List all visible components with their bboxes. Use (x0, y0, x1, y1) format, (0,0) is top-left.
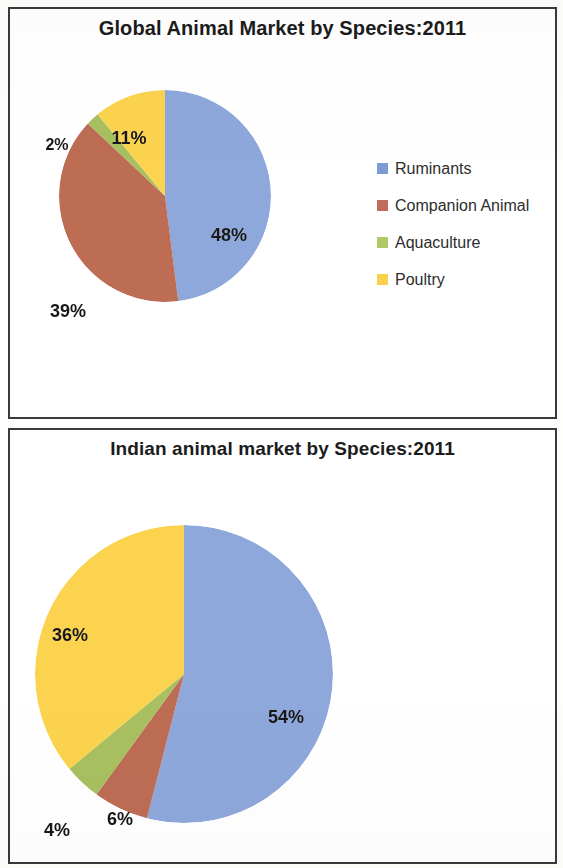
legend-item-poultry-global[interactable]: Poultry (377, 261, 529, 298)
legend-label-companion-animal: Companion Animal (395, 198, 529, 214)
legend-swatch-aquaculture-icon (377, 237, 388, 248)
slice-label-poultry-indian: 36% (52, 625, 88, 646)
slice-label-ruminants-global: 48% (211, 225, 247, 246)
legend-item-companion-animal-global[interactable]: Companion Animal (377, 187, 529, 224)
pie-canvas-global (59, 90, 271, 302)
pie-chart-global[interactable] (59, 90, 271, 302)
pie-canvas-indian (35, 525, 333, 823)
legend-swatch-poultry-icon (377, 274, 388, 285)
legend-label-aquaculture: Aquaculture (395, 235, 480, 251)
legend-label-ruminants: Ruminants (395, 161, 471, 177)
slice-label-companion-animal-global: 39% (50, 301, 86, 322)
pie-chart-indian[interactable] (35, 525, 333, 823)
legend-swatch-ruminants-icon (377, 163, 388, 174)
slice-label-poultry-global: 11% (111, 128, 146, 149)
chart-card-global: Global Animal Market by Species:2011 48%… (8, 7, 557, 419)
legend-swatch-companion-animal-icon (377, 200, 388, 211)
slice-label-aquaculture-global: 2% (45, 136, 68, 154)
chart-title-indian: Indian animal market by Species:2011 (10, 438, 555, 460)
legend-item-aquaculture-global[interactable]: Aquaculture (377, 224, 529, 261)
legend-label-poultry: Poultry (395, 272, 445, 288)
slice-label-companion-animal-indian: 6% (107, 809, 133, 830)
chart-title-global: Global Animal Market by Species:2011 (10, 17, 555, 40)
legend-global: Ruminants Companion Animal Aquaculture P… (377, 150, 529, 298)
slice-label-aquaculture-indian: 4% (44, 820, 70, 841)
slice-label-ruminants-indian: 54% (268, 707, 304, 728)
page-root: Global Animal Market by Species:2011 48%… (0, 0, 563, 868)
legend-item-ruminants-global[interactable]: Ruminants (377, 150, 529, 187)
chart-card-indian: Indian animal market by Species:2011 54%… (8, 428, 557, 864)
